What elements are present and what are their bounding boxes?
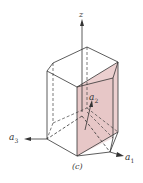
a2-axis-label: a2 bbox=[89, 93, 98, 104]
a2-subscript: 2 bbox=[94, 97, 98, 104]
z-axis-label: z bbox=[79, 11, 83, 19]
a1-subscript: 1 bbox=[130, 157, 134, 164]
prism-diagram bbox=[0, 0, 143, 183]
a3-axis-label: a3 bbox=[9, 133, 18, 144]
hexagonal-prism-figure: z a2 a3 a1 (c) bbox=[0, 0, 143, 183]
figure-caption: (c) bbox=[72, 163, 83, 171]
a3-subscript: 3 bbox=[14, 137, 18, 144]
a1-axis-label: a1 bbox=[125, 153, 134, 164]
